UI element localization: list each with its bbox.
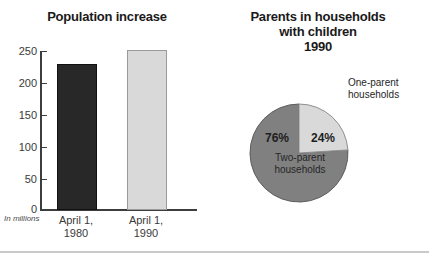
pie-label-one-parent-line1: One-parent	[348, 77, 428, 89]
bar-april-1-1990[interactable]	[127, 50, 167, 210]
pie-chart-panel: Parents in households with children 1990…	[214, 0, 429, 263]
x-category-1990-line2: 1990	[114, 227, 178, 240]
pie-slice-one-parent[interactable]	[299, 104, 348, 153]
pie-label-one-parent-line2: households	[348, 89, 428, 101]
x-category-1990-line1: April 1,	[114, 214, 178, 227]
units-note: In millions	[4, 214, 44, 223]
pie-chart-title: Parents in households with children 1990	[220, 9, 416, 54]
x-category-1980-line2: 1980	[44, 227, 108, 240]
bar-april-1-1980[interactable]	[57, 64, 97, 210]
pie-label-two-parent-line2: households	[254, 164, 346, 176]
pie-chart-title-line2: with children	[220, 24, 416, 39]
pie-percent-one-parent: 24%	[311, 131, 335, 145]
figure-root: Population increase 250 200 150 100 50 0	[0, 0, 429, 263]
x-category-1980-line1: April 1,	[44, 214, 108, 227]
footer-divider	[0, 251, 429, 253]
bar-chart-panel: Population increase 250 200 150 100 50 0	[0, 0, 214, 263]
x-category-1980: April 1, 1980	[44, 214, 108, 240]
pie-label-two-parent-line1: Two-parent	[254, 152, 346, 164]
bars-layer	[0, 0, 214, 210]
pie-percent-two-parent: 76%	[265, 131, 289, 145]
pie-chart-title-line1: Parents in households	[220, 9, 416, 24]
pie-chart-title-line3: 1990	[220, 39, 416, 54]
x-category-1990: April 1, 1990	[114, 214, 178, 240]
pie-label-two-parent: Two-parent households	[254, 152, 346, 176]
pie-label-one-parent: One-parent households	[348, 77, 428, 101]
